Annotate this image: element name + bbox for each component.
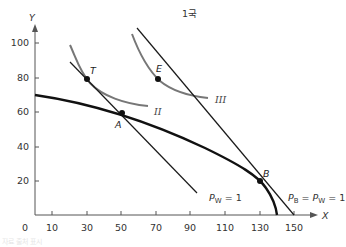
indifference-iii-label: III [214, 94, 227, 105]
y-tick-label: 20 [17, 175, 29, 186]
x-tick-label: 110 [216, 222, 234, 233]
x-axis-title: X [321, 210, 329, 221]
y-axis-title: Y [29, 12, 36, 23]
x-tick-label: 50 [115, 222, 127, 233]
price-value: = 1 [325, 192, 345, 203]
price-line-trade [137, 28, 294, 215]
point-e-label: E [156, 63, 162, 74]
point-b-label: B [263, 168, 270, 179]
price-line-world [70, 62, 197, 193]
y-tick-label: 100 [11, 37, 29, 48]
x-tick-label: 30 [81, 222, 93, 233]
point-a-marker [119, 110, 125, 116]
x-tick-label: 90 [184, 222, 196, 233]
indifference-ii-label: II [153, 106, 162, 117]
indifference-curve-ii [70, 45, 148, 106]
price-trade-label: PB = PW = 1 [288, 192, 345, 205]
y-axis-arrow-icon [32, 24, 38, 32]
x-axis-arrow-icon [310, 212, 318, 218]
y-tick-label: 40 [17, 141, 29, 152]
price-world-label: PW = 1 [209, 192, 242, 205]
x-tick-label: 70 [150, 222, 162, 233]
x-tick-label: 150 [285, 222, 303, 233]
x-tick-label: 10 [46, 222, 58, 233]
point-t-label: T [90, 65, 97, 76]
y-tick-label: 60 [17, 106, 29, 117]
y-tick-label: 80 [17, 72, 29, 83]
point-e-marker [155, 76, 161, 82]
price-value: = 1 [222, 192, 242, 203]
trade-diagram: 1국 100 80 60 40 20 [0, 0, 346, 247]
price-equals: = [299, 192, 313, 203]
point-a-label: A [114, 119, 122, 130]
x-tick-label: 130 [251, 222, 269, 233]
source-caption: 자료 출처 표시 [2, 236, 42, 246]
indifference-curve-iii [132, 34, 208, 98]
chart-title: 1국 [182, 8, 197, 19]
x-tick-label: 0 [22, 222, 28, 233]
point-t-marker [84, 76, 90, 82]
